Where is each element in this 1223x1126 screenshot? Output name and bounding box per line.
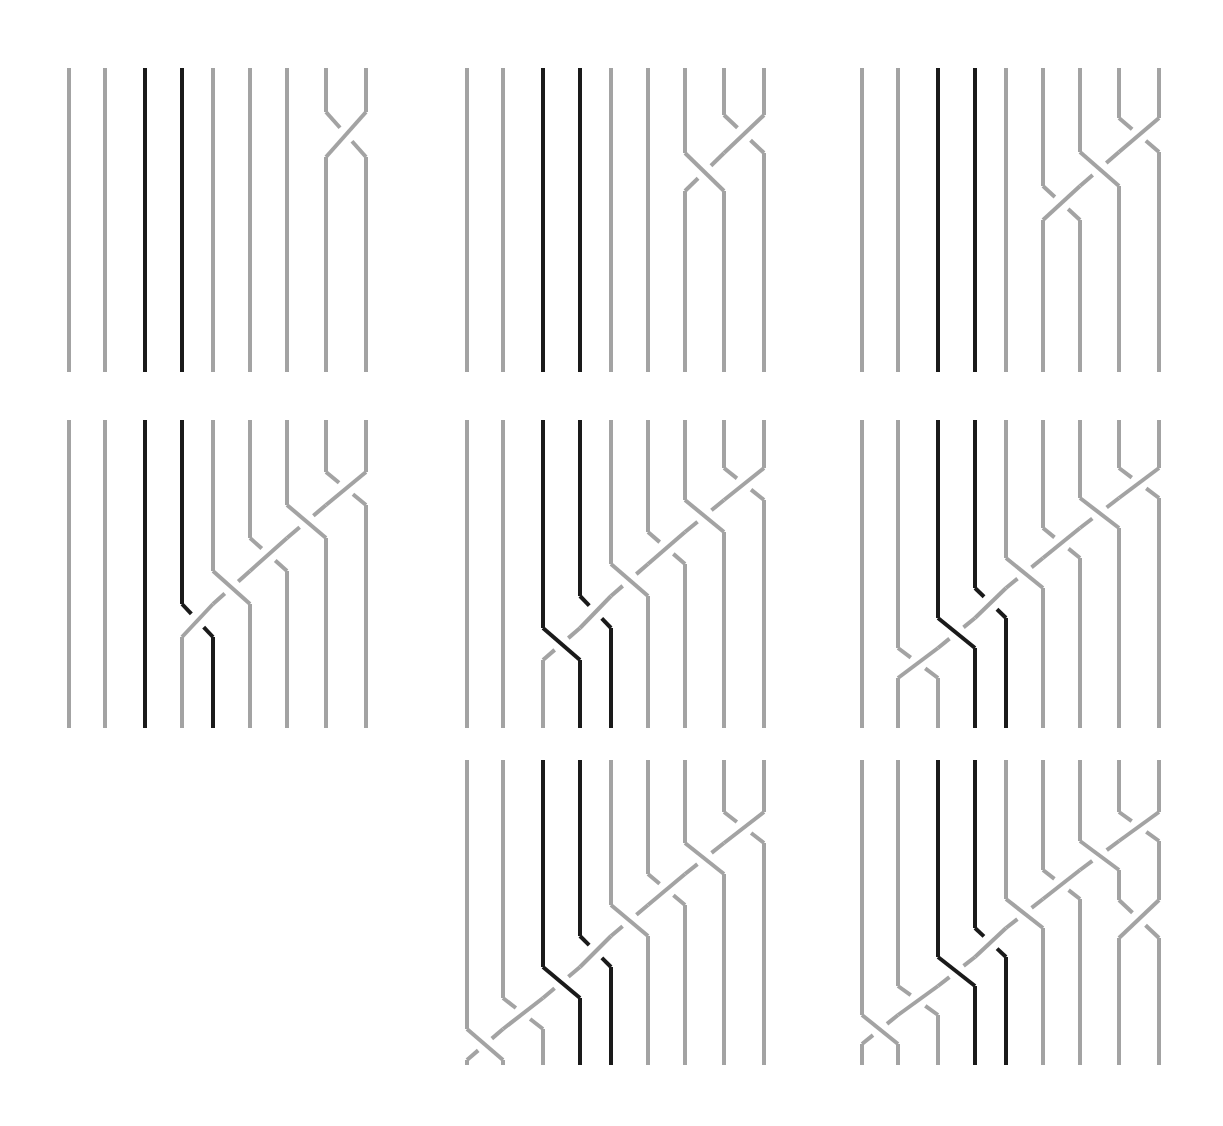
strand-traveling: [862, 1035, 873, 1044]
strand-8: [1146, 832, 1159, 841]
strand-6: [1069, 890, 1080, 899]
strand-traveling: [238, 571, 250, 582]
braid-panel-1: [69, 68, 366, 372]
strand-traveling: [611, 926, 623, 936]
strand-6: [250, 538, 262, 549]
strand-6: [1068, 549, 1080, 558]
strand-8: [1119, 468, 1132, 478]
strand-7: [1119, 900, 1132, 913]
strand-2: [898, 986, 911, 995]
strand-traveling: [938, 977, 949, 986]
strand-traveling: [1080, 175, 1093, 186]
strand-traveling: [313, 505, 326, 516]
strand-7: [1146, 925, 1159, 938]
strand-traveling: [1006, 579, 1018, 588]
strand-6: [1043, 528, 1055, 537]
strand-6: [1068, 209, 1080, 220]
strand-traveling: [1080, 861, 1092, 870]
strand-8: [352, 141, 366, 157]
strand-8: [724, 468, 737, 478]
strand-traveling: [964, 957, 975, 966]
strand-2: [530, 1019, 543, 1029]
braid-panel-7: [467, 760, 764, 1065]
strand-8: [1146, 488, 1159, 498]
strand-traveling: [1080, 518, 1092, 528]
braid-panel-2: [467, 68, 764, 372]
braid-panel-8: [862, 760, 1159, 1065]
strand-traveling: [963, 618, 975, 627]
strand-traveling: [213, 593, 225, 604]
strand-2: [925, 1006, 938, 1015]
strand-traveling: [685, 178, 698, 191]
strand-8: [326, 472, 339, 483]
strand-4: [997, 609, 1006, 618]
strand-4: [580, 596, 589, 606]
strand-traveling: [712, 843, 724, 853]
braid-panel-3: [862, 68, 1159, 372]
strand-traveling: [1107, 841, 1119, 850]
strand-8: [751, 140, 764, 153]
strand-traveling: [938, 639, 950, 648]
strand-6: [275, 560, 287, 571]
strand-8: [326, 112, 340, 128]
strand-traveling: [1032, 899, 1043, 908]
strand-traveling: [887, 1015, 898, 1024]
strand-traveling: [1107, 498, 1119, 508]
strand-8: [751, 833, 764, 843]
strand-8: [724, 115, 737, 128]
strand-traveling: [1006, 919, 1017, 928]
braid-panel-4: [69, 420, 366, 728]
strand-traveling: [611, 586, 623, 596]
strand-6: [648, 874, 660, 884]
strand-4: [975, 588, 984, 597]
strand-8: [1146, 141, 1159, 152]
strand-4: [204, 627, 213, 637]
strand-traveling: [543, 988, 555, 998]
strand-6: [673, 895, 685, 905]
strand-4: [997, 949, 1006, 957]
strand-traveling: [492, 1029, 503, 1039]
strand-6: [673, 554, 685, 564]
strand-8: [1119, 118, 1132, 129]
strand-2: [925, 668, 938, 678]
strand-6: [648, 532, 660, 542]
strand-traveling: [636, 564, 648, 574]
strand-4: [580, 936, 589, 945]
strand-4: [182, 604, 191, 614]
strand-8: [353, 494, 366, 505]
strand-4: [602, 618, 611, 628]
strand-traveling: [711, 500, 724, 510]
strand-traveling: [543, 650, 555, 660]
strand-6: [1043, 186, 1055, 197]
strand-traveling: [1106, 152, 1119, 163]
braid-panel-5: [467, 420, 764, 728]
strand-traveling: [636, 905, 648, 915]
strand-traveling: [568, 967, 580, 977]
strand-6: [1043, 870, 1054, 879]
strand-traveling: [287, 527, 300, 538]
strand-4: [975, 928, 984, 936]
strand-4: [602, 958, 611, 967]
strand-2: [503, 998, 516, 1008]
strand-traveling: [467, 1050, 478, 1060]
strand-8: [1119, 812, 1132, 821]
strand-traveling: [685, 864, 697, 874]
braid-panel-6: [862, 420, 1159, 728]
strand-8: [724, 812, 737, 822]
braid-diagram-canvas: [0, 0, 1223, 1126]
strand-2: [898, 648, 911, 658]
strand-traveling: [568, 628, 580, 638]
strand-8: [751, 490, 764, 500]
strand-traveling: [1031, 558, 1043, 567]
strand-traveling: [711, 153, 724, 166]
strand-traveling: [685, 522, 698, 532]
